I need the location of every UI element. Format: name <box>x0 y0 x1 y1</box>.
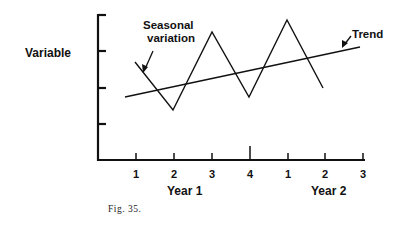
x-tick-label: 1 <box>133 168 139 180</box>
x-tick-label: 2 <box>171 168 177 180</box>
figure-canvas: 1 2 3 4 1 2 3 Year 1 Year 2 Variable Sea… <box>0 0 410 225</box>
y-axis-label: Variable <box>25 46 71 60</box>
x-tick-label: 3 <box>209 168 215 180</box>
seasonal-label-line2: variation <box>147 32 195 44</box>
x-tick-labels: 1 2 3 4 1 2 3 <box>133 168 366 180</box>
seasonal-label-line1: Seasonal <box>143 19 194 31</box>
figure-caption: Fig. 35. <box>108 204 141 214</box>
x-tick-label: 1 <box>285 168 291 180</box>
x-tick-label: 4 <box>247 168 254 180</box>
x-ticks <box>136 146 363 160</box>
axes <box>97 14 365 161</box>
trend-arrow-icon <box>342 36 351 48</box>
year-1-label: Year 1 <box>167 184 203 198</box>
x-tick-label: 3 <box>360 168 366 180</box>
year-2-label: Year 2 <box>311 184 347 198</box>
x-tick-label: 2 <box>322 168 328 180</box>
trend-line <box>125 47 360 97</box>
trend-label: Trend <box>352 28 383 40</box>
seasonal-arrow-icon <box>142 51 153 73</box>
